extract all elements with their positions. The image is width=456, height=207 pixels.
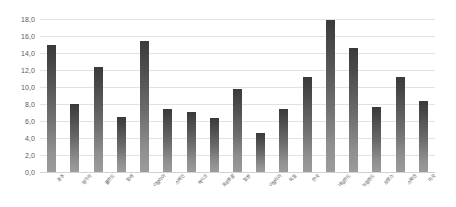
plot-area	[40, 19, 435, 172]
x-axis-category-label: 스웨덴	[407, 174, 419, 186]
bar	[279, 109, 288, 172]
y-axis-tick-label: 18,0	[21, 16, 35, 23]
x-axis-category-label: 포르투갈	[222, 174, 237, 189]
x-axis-category-label: 헝가리	[81, 174, 93, 186]
x-axis-category-labels: 호주헝가리폴란드칠레이탈리아스페인멕시코포르투갈일본이탈리아독일한국네덜란드뉴질…	[40, 174, 435, 207]
bar	[117, 117, 126, 172]
bar	[94, 67, 103, 172]
bar	[396, 77, 405, 172]
x-axis-category-label: 칠레	[127, 174, 136, 183]
x-axis-category-label: 프랑스	[383, 174, 395, 186]
x-axis-category-label: 미국	[429, 174, 438, 183]
x-axis-category-label: 호주	[57, 174, 66, 183]
bar	[70, 104, 79, 172]
y-axis-tick-label: 8,0	[25, 101, 35, 108]
bar	[233, 89, 242, 172]
y-axis-tick-label: 0,0	[25, 169, 35, 176]
y-axis-tick-label: 2,0	[25, 152, 35, 159]
x-axis-category-label: 네덜란드	[338, 174, 353, 189]
y-axis-tick-label: 4,0	[25, 135, 35, 142]
bar	[140, 41, 149, 172]
bar	[163, 109, 172, 172]
y-axis-tick-label: 12,0	[21, 67, 35, 74]
y-axis-tick-label: 10,0	[21, 84, 35, 91]
bar	[349, 48, 358, 172]
axis-baseline	[40, 172, 435, 173]
x-axis-category-label: 이탈리아	[152, 174, 167, 189]
x-axis-category-label: 일본	[243, 174, 252, 183]
x-axis-category-label: 한국	[313, 174, 322, 183]
bar	[187, 112, 196, 172]
x-axis-category-label: 폴란드	[105, 174, 117, 186]
x-axis-category-label: 멕시코	[198, 174, 210, 186]
x-axis-category-label: 독일	[289, 174, 298, 183]
bar	[303, 77, 312, 172]
y-axis-tick-label: 16,0	[21, 33, 35, 40]
bar-chart: 0,02,04,06,08,010,012,014,016,018,0 호주헝가…	[0, 0, 456, 207]
x-axis-category-label: 뉴질랜드	[361, 174, 376, 189]
bars-group	[40, 19, 435, 172]
y-axis-tick-label: 14,0	[21, 50, 35, 57]
bar	[326, 20, 335, 172]
x-axis-category-label: 이탈리아	[268, 174, 283, 189]
x-axis-category-label: 스페인	[174, 174, 186, 186]
y-axis-tick-label: 6,0	[25, 118, 35, 125]
bar	[47, 45, 56, 173]
bar	[372, 107, 381, 172]
bar	[419, 101, 428, 172]
bar	[256, 133, 265, 172]
y-axis: 0,02,04,06,08,010,012,014,016,018,0	[0, 0, 40, 207]
bar	[210, 118, 219, 172]
